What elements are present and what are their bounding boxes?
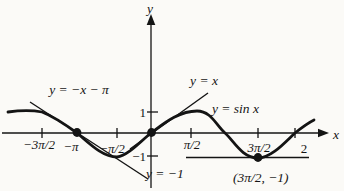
point-label-3pi-2-neg-1: (3π/2, −1) bbox=[233, 170, 289, 185]
y-tick-label-1: 1 bbox=[140, 105, 147, 120]
x-tick-label-2: 2 bbox=[301, 141, 308, 156]
equation-label-y-equals-neg-1: y = −1 bbox=[144, 166, 184, 181]
y-tick-label-neg-1: −1 bbox=[132, 149, 146, 164]
x-axis-arrowhead-icon bbox=[318, 129, 329, 138]
x-tick-label-neg-3pi-2: −3π/2 bbox=[23, 137, 55, 152]
y-axis-label: y bbox=[145, 1, 153, 16]
point-neg-pi-zero bbox=[73, 128, 82, 137]
equation-label-neg-x-minus-pi: y = −x − π bbox=[47, 82, 110, 97]
x-tick-label-pi-2: π/2 bbox=[184, 137, 201, 152]
equation-label-y-equals-x: y = x bbox=[188, 73, 218, 88]
x-tick-label-3pi-2: 3π/2 bbox=[246, 140, 271, 155]
point-origin bbox=[147, 128, 156, 137]
x-axis-label: x bbox=[332, 127, 339, 142]
figure-canvas: y x y = −x − π y = x y = sin x y = −1 (3… bbox=[0, 0, 344, 191]
x-tick-label-neg-pi: −π bbox=[63, 139, 79, 154]
equation-label-y-equals-sin-x: y = sin x bbox=[210, 101, 259, 116]
sine-tangent-figure: y x y = −x − π y = x y = sin x y = −1 (3… bbox=[0, 0, 344, 191]
x-tick-label-neg-pi-2: −π/2 bbox=[99, 141, 125, 156]
